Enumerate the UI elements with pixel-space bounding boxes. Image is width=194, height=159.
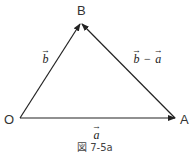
vector-a-label: → a	[92, 123, 101, 141]
point-label-b: B	[77, 4, 86, 17]
vector-b-label: → b	[41, 47, 50, 65]
figure-caption: 図 7-5a	[77, 143, 113, 153]
vector-b-line	[20, 24, 80, 118]
vector-b-minus-a-label: → b − → a	[132, 47, 163, 65]
vector-b-minus-a-line	[82, 24, 175, 118]
point-label-o: O	[4, 113, 14, 126]
point-label-a: A	[180, 113, 189, 126]
